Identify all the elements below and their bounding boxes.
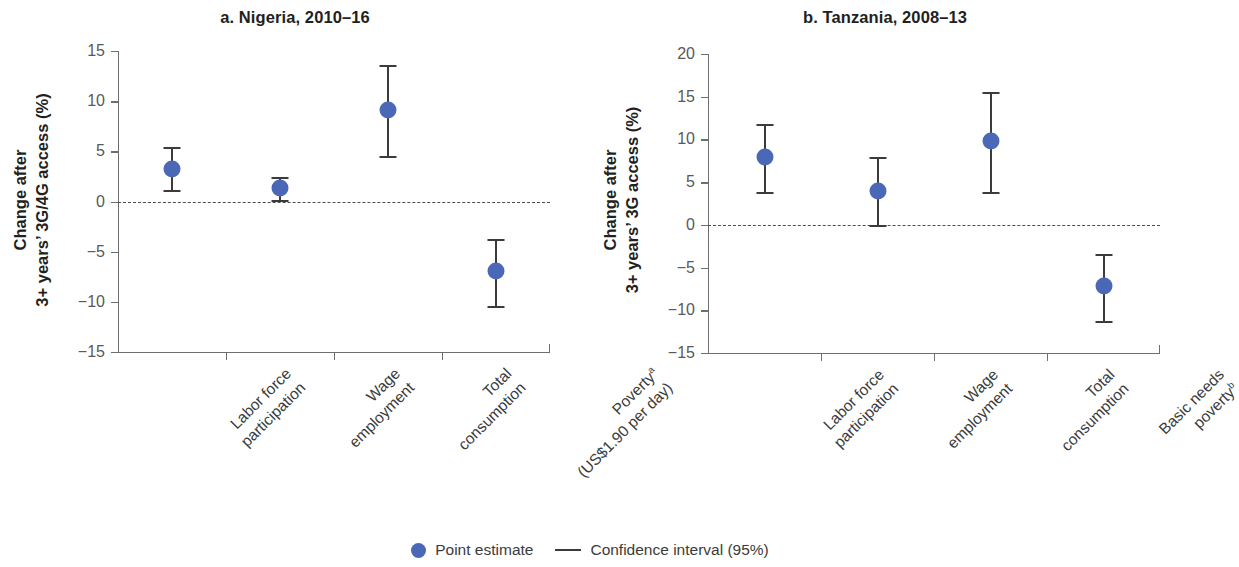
panel-b-error-bar-cap (869, 157, 886, 159)
panel-b-x-category-label: Labor forceparticipation (815, 365, 902, 452)
panel-b-y-tick (701, 97, 708, 98)
panel-a-plot-area: 151050−5−10−15 (118, 51, 550, 352)
panel-a-y-axis-title: Change after 3+ years’ 3G/4G access (%) (6, 45, 58, 355)
panel-b-point-estimate-marker (869, 182, 886, 199)
panel-b-x-category-label: Basic needspovertyb (1154, 365, 1239, 453)
panel-b-y-tick-label: −15 (655, 344, 695, 362)
panel-b-y-tick-label: −5 (655, 259, 695, 277)
panel-b-title: b. Tanzania, 2008–13 (590, 8, 1180, 27)
panel-b-x-tick (1047, 353, 1048, 361)
panel-b-y-tick-label: 5 (655, 173, 695, 191)
panel-b-y-tick-label: 15 (655, 88, 695, 106)
panel-b-point-estimate-marker (756, 148, 773, 165)
panel-b-x-category-label: Wageemployment (928, 365, 1016, 453)
panel-b-y-tick (701, 182, 708, 183)
point-estimate-marker-icon (411, 543, 426, 558)
panel-a-x-category-label: Totalconsumption (440, 364, 530, 454)
panel-b-y-tick-label: 0 (655, 216, 695, 234)
panel-a-y-tick (111, 51, 118, 52)
panel-b-y-tick (701, 353, 708, 354)
panel-a-point-estimate-marker (272, 180, 289, 197)
panel-a-zero-reference-line (118, 202, 550, 203)
panel-b-y-tick (701, 139, 708, 140)
panel-b-zero-reference-line (708, 225, 1160, 226)
panel-a-y-tick-label: −5 (65, 243, 105, 261)
panel-a-y-tick-label: 10 (65, 92, 105, 110)
panel-b-y-axis-title-line2: 3+ years’ 3G access (%) (623, 107, 641, 294)
panel-a-error-bar-cap (380, 65, 397, 67)
panel-a-y-tick-label: 5 (65, 142, 105, 160)
panel-a-error-bar-cap (380, 156, 397, 158)
panel-b-y-tick (701, 225, 708, 226)
panel-a-point-estimate-marker (488, 262, 505, 279)
panel-a-x-axis-end-cap (549, 344, 550, 352)
panel-b-y-tick-label: 10 (655, 130, 695, 148)
panel-b-error-bar-cap (1095, 254, 1112, 256)
panel-a-x-category-label: Wageemployment (331, 364, 419, 452)
panel-b-x-category-label: Totalconsumption (1042, 365, 1132, 455)
panel-b-error-bar-cap (982, 192, 999, 194)
legend-label-point-estimate: Point estimate (435, 541, 533, 559)
panel-b-y-tick (701, 54, 708, 55)
panel-b-error-bar-cap (756, 124, 773, 126)
figure-legend: Point estimate Confidence interval (95%) (0, 541, 1180, 559)
legend-item-point-estimate: Point estimate (411, 541, 533, 559)
panel-a-error-bar-cap (164, 190, 181, 192)
panel-b-x-tick (934, 353, 935, 361)
legend-label-confidence-interval: Confidence interval (95%) (590, 541, 768, 559)
panel-a-y-tick-label: 0 (65, 193, 105, 211)
panel-b-y-axis-line (708, 54, 709, 353)
panel-a-x-tick (334, 352, 335, 360)
panel-a-error-bar-cap (272, 200, 289, 202)
panel-a-y-tick-label: 15 (65, 42, 105, 60)
panel-b-error-bar-cap (869, 225, 886, 227)
panel-b-point-estimate-marker (1095, 278, 1112, 295)
panel-a-y-tick (111, 151, 118, 152)
confidence-interval-line-icon (555, 549, 581, 551)
panel-b-error-bar-cap (1095, 321, 1112, 323)
panel-a-title: a. Nigeria, 2010–16 (0, 8, 590, 27)
panel-a-y-tick (111, 202, 118, 203)
panel-a-error-bar-cap (164, 147, 181, 149)
panel-b-error-bar-cap (982, 92, 999, 94)
panel-a-error-bar-cap (488, 306, 505, 308)
panel-a-y-axis-title-line1: Change after (11, 150, 29, 251)
panel-b-y-axis-title-line1: Change after (601, 150, 619, 251)
panel-a-y-axis-title-line2: 3+ years’ 3G/4G access (%) (33, 93, 51, 306)
panel-a-point-estimate-marker (164, 161, 181, 178)
panel-b-plot-area: 20151050−5−10−15 (708, 54, 1160, 353)
panel-b-y-tick-label: 20 (655, 45, 695, 63)
panel-a-y-tick-label: −15 (65, 343, 105, 361)
panel-b-y-tick (701, 310, 708, 311)
panel-a-y-tick (111, 252, 118, 253)
panel-a-y-tick-label: −10 (65, 293, 105, 311)
panel-nigeria: a. Nigeria, 2010–16 Change after 3+ year… (0, 0, 590, 520)
panel-b-error-bar-cap (756, 192, 773, 194)
panel-b-y-tick (701, 268, 708, 269)
panel-b-y-tick-label: −10 (655, 301, 695, 319)
panel-a-x-tick (226, 352, 227, 360)
panel-b-point-estimate-marker (982, 133, 999, 150)
panel-a-y-tick (111, 101, 118, 102)
panel-b-x-tick (821, 353, 822, 361)
panel-b-x-axis-end-cap (1159, 345, 1160, 353)
panel-a-error-bar-cap (488, 239, 505, 241)
panel-b-y-axis-title: Change after 3+ years’ 3G access (%) (596, 45, 648, 355)
panel-a-x-category-label: Labor forceparticipation (222, 364, 309, 451)
panel-a-y-tick (111, 352, 118, 353)
panel-tanzania: b. Tanzania, 2008–13 Change after 3+ yea… (590, 0, 1180, 520)
panel-a-x-tick (442, 352, 443, 360)
legend-item-confidence-interval: Confidence interval (95%) (555, 541, 768, 559)
panel-a-point-estimate-marker (380, 102, 397, 119)
panel-a-y-tick (111, 302, 118, 303)
